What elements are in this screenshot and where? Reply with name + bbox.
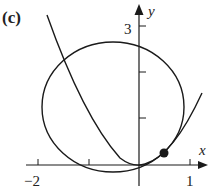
y-axis-label: y	[146, 3, 155, 19]
x-tick-label-neg2: −2	[24, 173, 40, 189]
y-axis-arrow-icon	[135, 4, 144, 15]
x-axis-label: x	[198, 142, 206, 158]
parabola-curve	[47, 15, 202, 165]
diagram-figure: (c) x y −2 1 3	[0, 0, 208, 195]
x-axis-arrow-icon	[198, 161, 208, 169]
x-tick-label-1: 1	[186, 173, 194, 189]
tangent-point-dot	[160, 149, 169, 158]
y-tick-label-3: 3	[124, 21, 132, 37]
panel-label: (c)	[2, 8, 21, 27]
